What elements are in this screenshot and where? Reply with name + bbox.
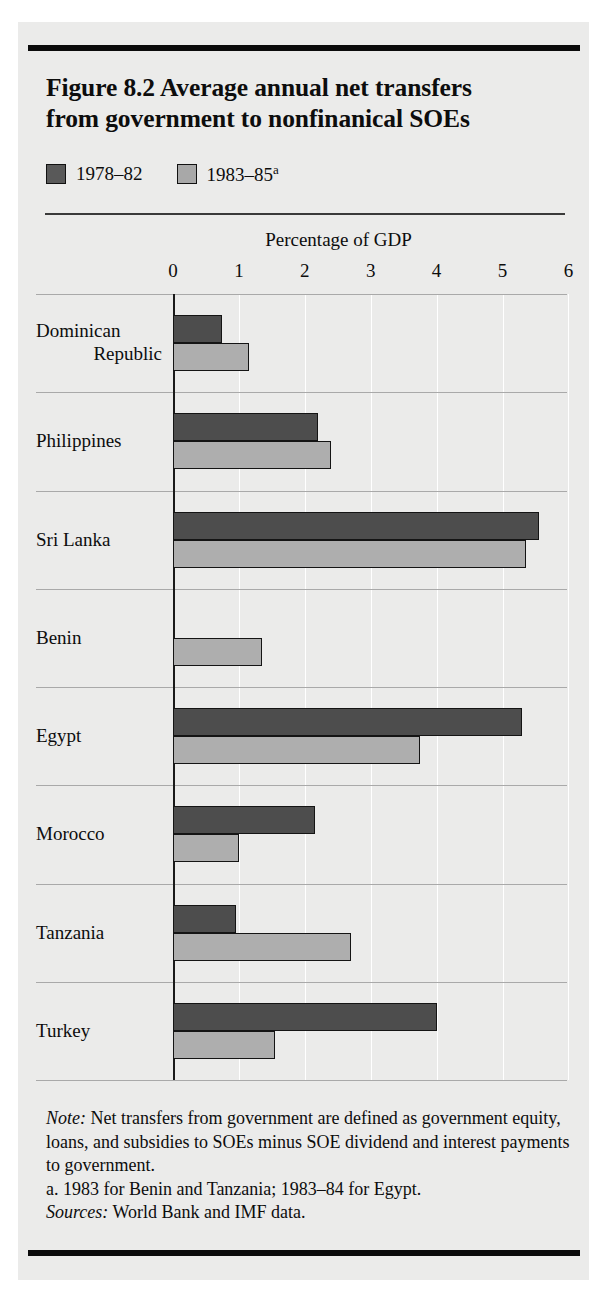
bar-benin-1983-85 — [173, 638, 262, 666]
bar-turkey-1978-82 — [173, 1003, 437, 1031]
footnote-a: a. 1983 for Benin and Tanzania; 1983–84 … — [46, 1178, 570, 1202]
row-label-sri-lanka: Sri Lanka — [36, 528, 166, 551]
row-label-line: Turkey — [36, 1019, 166, 1042]
row-label-line: Dominican — [36, 320, 166, 343]
chart-row: DominicanRepublic — [18, 294, 589, 392]
chart-row: Turkey — [18, 982, 589, 1080]
row-label-egypt: Egypt — [36, 725, 166, 748]
chart-bar-rows: DominicanRepublicPhilippinesSri LankaBen… — [18, 294, 589, 1080]
bar-chart-plot: Percentage of GDP 0123456 DominicanRepub… — [18, 22, 589, 1280]
bar-sri-lanka-1983-85 — [173, 540, 526, 568]
footnote-note-prefix: Note: — [46, 1108, 86, 1128]
x-axis-tick-1: 1 — [234, 260, 244, 282]
chart-row: Egypt — [18, 687, 589, 785]
bar-philippines-1983-85 — [173, 441, 331, 469]
bar-tanzania-1978-82 — [173, 905, 236, 933]
row-label-line: Sri Lanka — [36, 528, 166, 551]
row-label-philippines: Philippines — [36, 430, 166, 453]
x-axis-tick-6: 6 — [564, 260, 574, 282]
row-label-line: Egypt — [36, 725, 166, 748]
x-axis-tick-4: 4 — [432, 260, 442, 282]
bar-philippines-1978-82 — [173, 413, 318, 441]
x-axis-title: Percentage of GDP — [18, 229, 589, 251]
chart-row: Benin — [18, 589, 589, 687]
row-label-line: Benin — [36, 626, 166, 649]
bar-sri-lanka-1978-82 — [173, 512, 539, 540]
footnote-sources-text: World Bank and IMF data. — [108, 1202, 305, 1222]
bar-dominican-republic-1978-82 — [173, 315, 222, 343]
row-label-dominican-republic: DominicanRepublic — [36, 320, 166, 366]
row-label-morocco: Morocco — [36, 823, 166, 846]
x-axis-tick-0: 0 — [168, 260, 178, 282]
row-label-line: Philippines — [36, 430, 166, 453]
figure-card: Figure 8.2 Average annual net transfers … — [18, 22, 589, 1280]
footnote-note: Note: Net transfers from government are … — [46, 1107, 570, 1178]
bar-dominican-republic-1983-85 — [173, 343, 249, 371]
figure-footnotes: Note: Net transfers from government are … — [46, 1107, 570, 1225]
chart-row: Morocco — [18, 785, 589, 883]
chart-row: Tanzania — [18, 884, 589, 982]
row-label-line: Republic — [36, 343, 166, 366]
bar-turkey-1983-85 — [173, 1031, 275, 1059]
footnote-sources-prefix: Sources: — [46, 1202, 108, 1222]
bar-tanzania-1983-85 — [173, 933, 351, 961]
x-axis-tick-3: 3 — [366, 260, 376, 282]
row-separator — [36, 1080, 567, 1081]
row-label-line: Tanzania — [36, 921, 166, 944]
footnote-sources: Sources: World Bank and IMF data. — [46, 1201, 570, 1225]
row-label-tanzania: Tanzania — [36, 921, 166, 944]
x-axis-tick-2: 2 — [300, 260, 310, 282]
row-label-benin: Benin — [36, 626, 166, 649]
bottom-divider-rule — [28, 1250, 580, 1256]
bar-egypt-1983-85 — [173, 736, 420, 764]
bar-morocco-1978-82 — [173, 806, 315, 834]
bar-morocco-1983-85 — [173, 834, 239, 862]
chart-row: Sri Lanka — [18, 491, 589, 589]
bar-egypt-1978-82 — [173, 708, 522, 736]
footnote-note-text: Net transfers from government are define… — [46, 1108, 569, 1175]
x-axis-tick-labels: 0123456 — [18, 260, 589, 284]
x-axis-tick-5: 5 — [498, 260, 508, 282]
row-label-line: Morocco — [36, 823, 166, 846]
row-label-turkey: Turkey — [36, 1019, 166, 1042]
chart-row: Philippines — [18, 392, 589, 490]
